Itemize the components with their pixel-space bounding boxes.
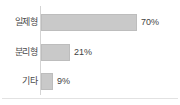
bottom-divider bbox=[2, 98, 178, 99]
category-label-2: 기타 bbox=[0, 73, 38, 90]
bar-2 bbox=[41, 73, 53, 90]
category-label-1: 분리형 bbox=[0, 44, 38, 61]
category-label-0: 일제형 bbox=[0, 14, 38, 31]
bar-1 bbox=[41, 44, 70, 61]
bar-value-label-1: 21% bbox=[74, 44, 92, 61]
bar-group-1: 21% bbox=[41, 44, 92, 61]
bar-chart: 일제형 70% 분리형 21% 기타 9% bbox=[0, 0, 180, 105]
bar-group-2: 9% bbox=[41, 73, 70, 90]
bar-group-0: 70% bbox=[41, 14, 159, 31]
bar-row: 분리형 21% bbox=[0, 44, 180, 61]
bar-value-label-2: 9% bbox=[57, 73, 70, 90]
bar-row: 일제형 70% bbox=[0, 14, 180, 31]
bar-row: 기타 9% bbox=[0, 73, 180, 90]
bar-rows: 일제형 70% 분리형 21% 기타 9% bbox=[0, 0, 180, 95]
bar-0 bbox=[41, 14, 137, 31]
bar-value-label-0: 70% bbox=[141, 14, 159, 31]
